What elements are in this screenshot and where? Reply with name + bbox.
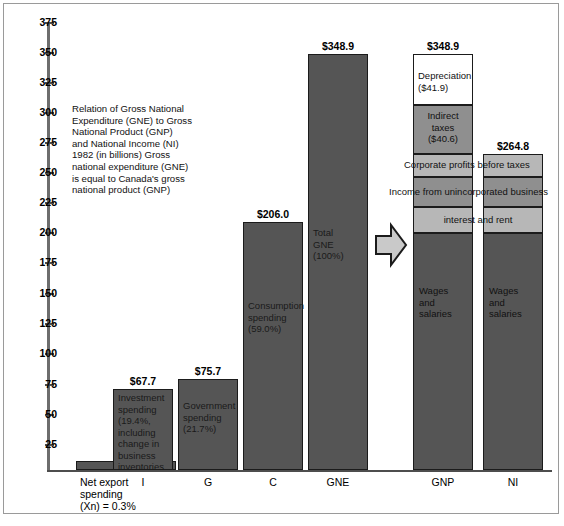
y-tick-200: 200 (29, 227, 57, 237)
y-tick-300: 300 (29, 107, 57, 117)
bar-gne[interactable] (308, 54, 368, 470)
y-tick-325: 325 (29, 77, 57, 87)
cat-label-ni: NI (483, 476, 543, 488)
spanning-label-corporate-profits: Corporate profits before taxes (404, 159, 554, 171)
spanning-label-unincorporated: Income from unincorporated business (389, 186, 564, 198)
cat-label-i: I (113, 476, 173, 488)
y-tick-175: 175 (29, 257, 57, 267)
bar-inner-label-c: Consumption spending (59.0%) (248, 300, 306, 335)
ni-segment-wages[interactable] (483, 233, 543, 470)
y-axis-line (47, 22, 50, 472)
gnp-segment-wages-label: Wages and salaries (419, 285, 475, 320)
chart-root: 375 350 325 300 275 250 225 200 175 150 … (0, 0, 564, 526)
y-tick-150: 150 (29, 288, 57, 298)
ni-segment-wages-label: Wages and salaries (489, 285, 545, 320)
y-tick-350: 350 (29, 47, 57, 57)
y-tick-225: 225 (29, 197, 57, 207)
y-tick-75: 75 (29, 379, 57, 389)
bar-inner-label-gne: Total GNE (100%) (313, 227, 369, 262)
bar-value-c: $206.0 (238, 209, 308, 220)
right-arrow-icon (374, 222, 408, 268)
bar-value-i: $67.7 (108, 376, 178, 387)
bar-c[interactable] (243, 222, 303, 470)
bar-inner-label-g: Government spending (21.7%) (183, 400, 241, 435)
bar-value-gnp: $348.9 (408, 41, 478, 52)
y-tick-250: 250 (29, 167, 57, 177)
y-tick-25: 25 (29, 439, 57, 449)
y-tick-50: 50 (29, 409, 57, 419)
y-tick-375: 375 (29, 17, 57, 27)
bar-inner-label-i: Investment spending (19.4%, including ch… (118, 392, 174, 473)
bar-value-gne: $348.9 (303, 41, 373, 52)
cat-label-gnp: GNP (413, 476, 473, 488)
plot-area: 375 350 325 300 275 250 225 200 175 150 … (0, 0, 564, 526)
bar-value-ni: $264.8 (478, 141, 548, 152)
cat-label-g: G (178, 476, 238, 488)
spanning-label-interest-rent: interest and rent (413, 214, 543, 226)
cat-label-c: C (243, 476, 303, 488)
gnp-segment-wages[interactable] (413, 233, 473, 470)
bar-value-g: $75.7 (173, 366, 243, 377)
gnp-segment-depreciation-label: Depreciation ($41.9) (418, 70, 476, 93)
cat-label-gne: GNE (308, 476, 368, 488)
y-tick-100: 100 (29, 348, 57, 358)
y-tick-275: 275 (29, 137, 57, 147)
y-tick-125: 125 (29, 318, 57, 328)
chart-title-text: Relation of Gross National Expenditure (… (72, 103, 232, 196)
gnp-segment-indirect-taxes-label: Indirect taxes ($40.6) (413, 110, 473, 145)
